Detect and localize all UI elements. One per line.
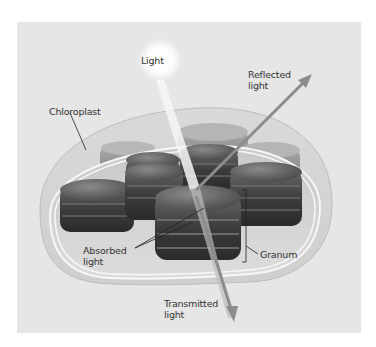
- granum-label: Granum: [260, 249, 297, 260]
- absorbed-light-label: Absorbed light: [83, 245, 127, 267]
- granum-stack-left: [60, 179, 134, 232]
- reflected-light-label: Reflected light: [248, 69, 291, 91]
- chloroplast-light-diagram: [0, 0, 376, 347]
- transmitted-light-label: Transmitted light: [164, 298, 218, 320]
- chloroplast-label: Chloroplast: [49, 106, 101, 117]
- light-label: Light: [141, 55, 164, 66]
